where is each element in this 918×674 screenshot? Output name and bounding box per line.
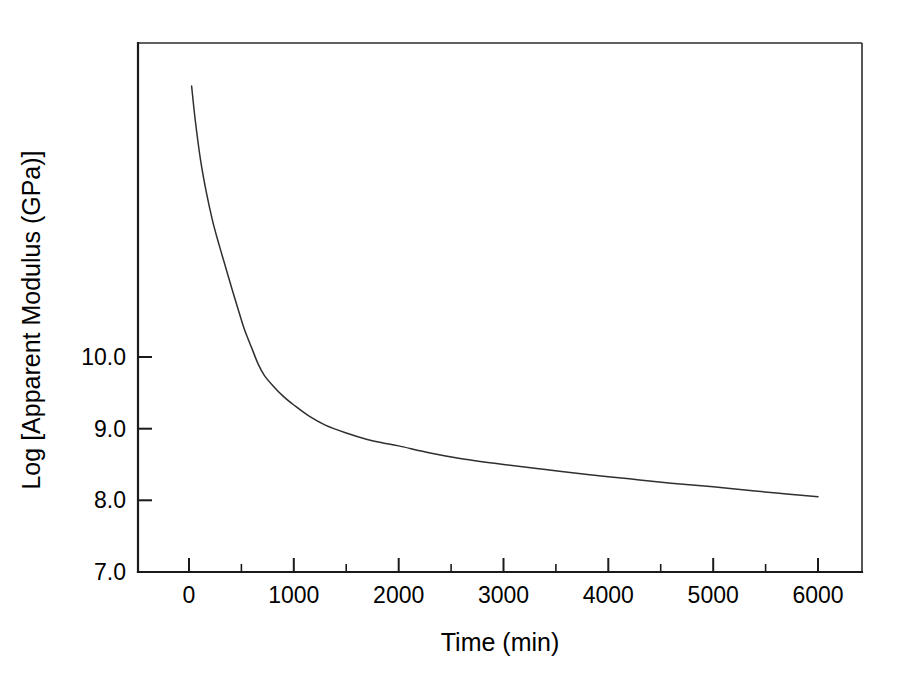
y-tick-label-8: 8.0 — [94, 487, 126, 513]
x-axis-major-ticks — [189, 558, 818, 572]
x-axis-title: Time (min) — [441, 628, 560, 656]
x-tick-labels: 0 1000 2000 3000 4000 5000 6000 — [183, 582, 844, 608]
y-tick-labels: 7.0 8.0 9.0 10.0 — [81, 344, 126, 585]
y-axis-title: Log [Apparent Modulus (GPa)] — [17, 150, 45, 489]
x-tick-label-0: 0 — [183, 582, 196, 608]
x-tick-label-1000: 1000 — [268, 582, 319, 608]
x-tick-label-4000: 4000 — [583, 582, 634, 608]
x-tick-label-2000: 2000 — [373, 582, 424, 608]
plot-frame — [138, 43, 862, 572]
y-axis-ticks — [138, 357, 152, 572]
x-tick-label-5000: 5000 — [688, 582, 739, 608]
y-tick-label-10: 10.0 — [81, 344, 126, 370]
figure-canvas: 7.0 8.0 9.0 10.0 0 1000 2000 3000 4000 5… — [0, 0, 918, 674]
chart-plot-area: 7.0 8.0 9.0 10.0 0 1000 2000 3000 4000 5… — [0, 0, 918, 674]
x-tick-label-6000: 6000 — [792, 582, 843, 608]
data-series-line — [192, 86, 818, 497]
y-tick-label-9: 9.0 — [94, 416, 126, 442]
x-tick-label-3000: 3000 — [478, 582, 529, 608]
y-tick-label-7: 7.0 — [94, 559, 126, 585]
